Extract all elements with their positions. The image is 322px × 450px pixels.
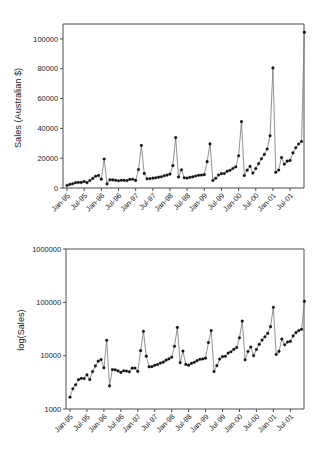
data-point — [111, 368, 114, 371]
data-point — [257, 162, 260, 165]
data-point — [303, 300, 306, 303]
data-point — [126, 179, 129, 182]
y-tick-label: 1000000 — [32, 245, 61, 254]
data-point — [169, 173, 172, 176]
log-x-axis: Jan-95Jul-95Jan-96Jul-96Jan-97Jul-97Jan-… — [53, 409, 296, 434]
data-point — [232, 348, 235, 351]
data-point — [134, 179, 137, 182]
data-point — [275, 353, 278, 356]
data-point — [91, 177, 94, 180]
data-point — [241, 320, 244, 323]
x-tick-label: Jan-98 — [153, 191, 175, 213]
y-tick-label: 80000 — [37, 64, 58, 73]
data-point — [209, 143, 212, 146]
x-tick-label: Jan-96 — [86, 412, 108, 434]
data-point — [260, 157, 263, 160]
x-tick-label: Jan-98 — [154, 412, 176, 434]
data-point — [203, 173, 206, 176]
data-point — [230, 350, 233, 353]
data-point — [274, 171, 277, 174]
data-point — [186, 177, 189, 180]
data-point — [88, 378, 91, 381]
data-point — [272, 306, 275, 309]
data-point — [86, 374, 89, 377]
data-point — [174, 136, 177, 139]
data-point — [297, 143, 300, 146]
log-chart-svg: 1000100001000001000000 log(Sales) Jan-95… — [0, 225, 322, 450]
data-point — [129, 178, 132, 181]
data-point — [125, 370, 128, 373]
data-point — [74, 181, 77, 184]
data-point — [69, 183, 72, 186]
data-point — [190, 362, 193, 365]
data-point — [249, 346, 252, 349]
linear-x-axis: Jan-95Jul-95Jan-96Jul-96Jan-97Jul-97Jan-… — [50, 188, 295, 213]
data-point — [212, 179, 215, 182]
data-point — [119, 371, 122, 374]
data-point — [148, 365, 151, 368]
data-point — [269, 325, 272, 328]
data-point — [292, 152, 295, 155]
x-tick-label: Jan-99 — [188, 412, 210, 434]
data-point — [89, 179, 92, 182]
linear-y-axis-title: Sales (Australian $) — [13, 68, 23, 148]
data-point — [264, 335, 267, 338]
data-point — [120, 179, 123, 182]
data-point — [280, 338, 283, 341]
data-point — [71, 387, 74, 390]
data-point — [261, 339, 264, 342]
data-point — [191, 175, 194, 178]
data-point — [214, 177, 217, 180]
data-point — [100, 178, 103, 181]
data-point — [134, 367, 137, 370]
data-point — [83, 377, 86, 380]
x-tick-label: Jan-00 — [221, 191, 243, 213]
data-point — [123, 179, 126, 182]
data-point — [77, 378, 80, 381]
data-point — [137, 168, 140, 171]
data-point — [156, 363, 159, 366]
linear-y-axis: 020000400006000080000100000 Sales (Austr… — [13, 35, 63, 193]
data-point — [207, 341, 210, 344]
data-point — [184, 363, 187, 366]
data-point — [194, 175, 197, 178]
data-point — [170, 356, 173, 359]
data-point — [74, 383, 77, 386]
data-point — [114, 368, 117, 371]
data-point — [177, 176, 180, 179]
data-point — [83, 180, 86, 183]
data-point — [255, 348, 258, 351]
data-point — [100, 358, 103, 361]
data-point — [300, 328, 303, 331]
data-point — [80, 181, 83, 184]
data-point — [252, 354, 255, 357]
data-point — [143, 172, 146, 175]
data-point — [159, 362, 162, 365]
data-point — [103, 366, 106, 369]
data-point — [151, 177, 154, 180]
data-point — [154, 176, 157, 179]
data-point — [266, 148, 269, 151]
y-tick-label: 100000 — [33, 35, 58, 44]
data-point — [217, 174, 220, 177]
data-point — [289, 159, 292, 162]
data-point — [254, 167, 257, 170]
data-point — [213, 370, 216, 373]
data-point — [168, 358, 171, 361]
y-tick-label: 20000 — [37, 154, 58, 163]
data-point — [153, 364, 156, 367]
data-point — [136, 370, 139, 373]
data-point — [200, 174, 203, 177]
data-point — [294, 146, 297, 149]
data-point — [297, 329, 300, 332]
data-point — [249, 165, 252, 168]
data-point — [97, 174, 100, 177]
data-point — [196, 359, 199, 362]
data-point — [140, 144, 143, 147]
data-point — [91, 370, 94, 373]
data-point — [237, 154, 240, 157]
data-point — [128, 370, 131, 373]
data-point — [151, 365, 154, 368]
y-tick-label: 10000 — [40, 351, 61, 360]
data-point — [193, 361, 196, 364]
